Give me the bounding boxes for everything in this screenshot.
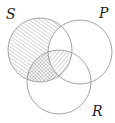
venn-diagram: S P R [0,0,115,123]
label-r: R [91,103,103,119]
label-p: P [98,5,109,21]
label-s: S [6,6,16,22]
